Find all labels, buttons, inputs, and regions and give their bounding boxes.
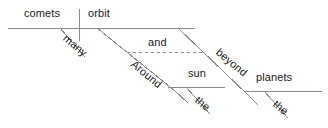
sentence-diagram: cometsorbitmanyandAroundbeyondsuntheplan… (0, 0, 328, 128)
diagram-word-subject: comets (24, 8, 60, 19)
diagram-word-conjunction: and (148, 37, 167, 48)
diagram-line-around-slant-tail (175, 91, 188, 103)
diagram-word-prep-object: sun (188, 68, 206, 79)
diagram-word-verb: orbit (88, 8, 110, 19)
diagram-word-object: planets (256, 72, 292, 83)
diagram-line-beyond-slant-tail (248, 95, 258, 105)
